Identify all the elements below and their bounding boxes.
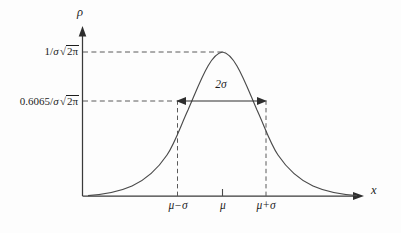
y-tick-label-inflection: 0.6065/σ√2π — [20, 95, 79, 107]
y-axis-arrowhead — [79, 26, 87, 37]
y-tick-inflection-numerator: 0.6065 — [20, 95, 50, 107]
gaussian-curve — [88, 52, 357, 196]
x-axis-arrowhead — [353, 192, 364, 200]
x-tick-label-mu-plus-sigma: μ+σ — [256, 200, 275, 212]
radical-sign-icon: √ — [60, 95, 66, 107]
plot-canvas — [0, 0, 401, 233]
y-tick-label-peak: 1/σ√2π — [45, 45, 79, 57]
y-tick-inflection-sqrt: √2π — [59, 95, 79, 107]
two-sigma-span-arrow — [176, 97, 267, 105]
radical-sign-icon: √ — [60, 45, 66, 57]
x-tick-label-mu: μ — [220, 200, 226, 212]
y-tick-peak-radicand: 2π — [66, 45, 79, 57]
y-tick-inflection-radicand: 2π — [66, 95, 79, 107]
two-sigma-annotation-label: 2σ — [215, 79, 226, 91]
normal-distribution-figure: ρ x 1/σ√2π 0.6065/σ√2π μ−σ μ μ+σ 2σ — [0, 0, 401, 233]
x-axis-label: x — [371, 184, 377, 197]
y-tick-peak-sqrt: √2π — [59, 45, 79, 57]
x-tick-label-mu-minus-sigma: μ−σ — [168, 200, 187, 212]
y-axis-label: ρ — [77, 6, 83, 19]
